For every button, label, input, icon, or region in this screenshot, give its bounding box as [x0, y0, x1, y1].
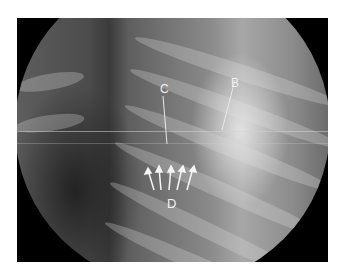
d-arrows — [145, 166, 196, 190]
label-c: C — [160, 83, 169, 95]
label-b: B — [231, 77, 239, 89]
xray-frame: C B D — [17, 18, 328, 262]
annotation-overlay — [17, 18, 328, 262]
pointer-c-line — [163, 96, 167, 144]
label-d: D — [167, 198, 176, 210]
